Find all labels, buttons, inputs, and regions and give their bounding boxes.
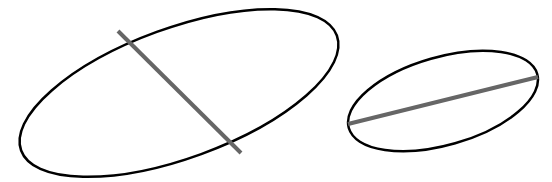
- diagram-canvas: [0, 0, 552, 182]
- background: [0, 0, 552, 182]
